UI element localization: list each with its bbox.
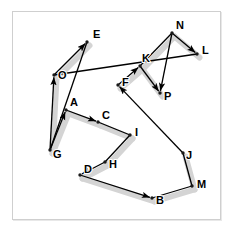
graph-node-O xyxy=(52,73,55,76)
graph-edge-K-P xyxy=(140,66,159,91)
graph-node-label-J: J xyxy=(186,149,192,161)
graph-node-label-M: M xyxy=(197,178,206,190)
graph-node-I xyxy=(128,133,131,136)
graph-node-E xyxy=(85,40,88,43)
graph-edge-D-B xyxy=(80,175,150,197)
graph-node-label-L: L xyxy=(202,44,209,56)
graph-node-label-D: D xyxy=(84,163,92,175)
graph-node-H xyxy=(103,160,106,163)
graph-node-M xyxy=(190,184,193,187)
figure-root: EONLKFPACIGHDJMB xyxy=(0,0,233,231)
graph-node-F xyxy=(116,83,119,86)
graph-node-label-G: G xyxy=(53,148,62,160)
graph-node-G xyxy=(48,148,51,151)
graph-edge-N-L xyxy=(172,33,195,53)
graph-node-A xyxy=(64,108,67,111)
edge-halo-M-J xyxy=(186,157,195,190)
edge-halo-A-C xyxy=(69,114,101,126)
graph-node-label-F: F xyxy=(122,76,129,88)
graph-node-label-O: O xyxy=(58,69,67,81)
graph-node-K xyxy=(138,64,141,67)
graph-node-L xyxy=(195,52,198,55)
graph-node-B xyxy=(150,196,153,199)
graph-node-label-B: B xyxy=(156,194,164,206)
graph-node-P xyxy=(158,91,161,94)
graph-node-label-E: E xyxy=(93,28,100,40)
graph-node-D xyxy=(78,173,81,176)
graph-node-label-P: P xyxy=(164,90,171,102)
graph-node-label-H: H xyxy=(109,158,117,170)
graph-node-N xyxy=(170,31,173,34)
graph-node-label-N: N xyxy=(176,19,184,31)
graph-node-label-C: C xyxy=(102,109,110,121)
graph-node-C xyxy=(96,120,99,123)
graph-node-label-A: A xyxy=(70,96,78,108)
graph-node-label-K: K xyxy=(142,52,150,64)
graph-node-J xyxy=(181,151,184,154)
edge-halo-layer xyxy=(53,37,200,202)
edge-halo-D-B xyxy=(83,179,155,202)
graph-canvas: EONLKFPACIGHDJMB xyxy=(0,0,233,231)
graph-node-label-I: I xyxy=(135,126,138,138)
